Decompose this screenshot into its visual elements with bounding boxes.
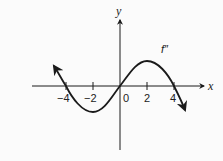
tick-label-4: 4 [170, 92, 176, 104]
tick-label-0: 0 [123, 92, 129, 104]
curve-label: f″ [161, 43, 169, 55]
x-axis-label: x [207, 79, 214, 93]
graph-canvas: −4 −2 0 2 4 x y f″ [0, 0, 223, 161]
graph-figure: −4 −2 0 2 4 x y f″ [0, 0, 223, 161]
tick-label-2: 2 [144, 92, 150, 104]
tick-label-neg2: −2 [84, 92, 97, 104]
y-axis-label: y [115, 4, 122, 18]
tick-label-neg4: −4 [57, 92, 70, 104]
